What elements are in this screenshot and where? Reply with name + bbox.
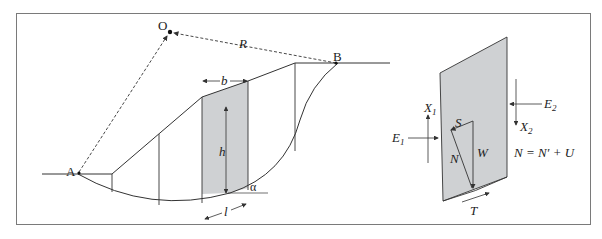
label-height: h	[219, 144, 226, 159]
label-width: b	[221, 73, 228, 88]
label-angle: α	[250, 180, 257, 194]
label-e1: E1	[391, 130, 404, 147]
label-t: T	[470, 203, 478, 218]
shaded-slice	[202, 81, 248, 194]
slice-force-panel: X1 E1 E2 X2 S W N T N = N′ + U	[391, 37, 576, 218]
label-s: S	[455, 115, 462, 130]
label-x2: X2	[519, 119, 533, 136]
label-center: O	[158, 18, 167, 33]
label-base-length: l	[224, 204, 228, 219]
label-radius: R	[238, 36, 247, 51]
slope-panel: O R A B b h α l	[42, 18, 390, 219]
slice-body	[440, 37, 507, 201]
center-point	[168, 30, 172, 34]
base-length-arrow	[205, 213, 222, 219]
label-point-a: A	[66, 164, 76, 179]
radius-line-a	[79, 36, 167, 172]
equation-normal-force: N = N′ + U	[513, 145, 576, 160]
label-n: N	[449, 151, 460, 166]
label-w: W	[477, 145, 489, 160]
label-point-b: B	[333, 49, 342, 64]
base-length-arrow-right	[231, 204, 246, 210]
slope-stability-diagram: O R A B b h α l X1 E1 E2 X2 S W N T N = …	[0, 0, 602, 239]
point-a-dot	[77, 171, 80, 174]
label-x1: X1	[423, 100, 436, 117]
radius-line-b	[174, 33, 336, 63]
label-e2: E2	[543, 96, 557, 113]
